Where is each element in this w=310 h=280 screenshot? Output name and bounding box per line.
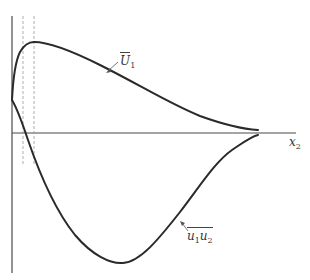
reynolds-stress-arrowhead bbox=[180, 221, 185, 226]
reynolds-stress-u1: u bbox=[187, 229, 195, 243]
mean-velocity-symbol: U bbox=[120, 52, 130, 68]
reynolds-stress-u2: u bbox=[200, 229, 208, 243]
x-axis-subscript: 2 bbox=[296, 142, 301, 151]
reynolds-stress-u2-sub: 2 bbox=[208, 236, 213, 245]
x-axis-symbol: x bbox=[289, 135, 296, 149]
reynolds-stress-symbol: u1u2 bbox=[187, 227, 213, 243]
mean-velocity-subscript: 1 bbox=[130, 61, 135, 70]
turbulence-profile-diagram bbox=[0, 0, 310, 280]
mean-velocity-label: U1 bbox=[120, 55, 135, 70]
reynolds-stress-label: u1u2 bbox=[187, 230, 213, 245]
x-axis-label: x2 bbox=[289, 136, 301, 151]
reynolds-stress-curve bbox=[12, 100, 258, 263]
